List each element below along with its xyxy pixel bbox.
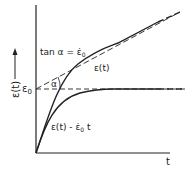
alpha-angle-arc	[58, 77, 60, 89]
curve-epsilon-t-extension	[158, 12, 180, 22]
x-axis-label: t	[166, 156, 170, 167]
curve-epsilon-minus-rate-label: ε(t) - ε̇0 t	[51, 122, 91, 133]
y-axis-label: ε(t)	[10, 81, 21, 98]
alpha-label: α	[51, 79, 57, 89]
curve-epsilon-minus-rate	[36, 89, 158, 153]
strain-diagram: ε(t) t ε0 α tan α = ε̇0 ε(t) ε(t) - ε̇0 …	[0, 0, 189, 172]
tan-alpha-label: tan α = ε̇0	[40, 47, 86, 58]
curve-epsilon-t-label: ε(t)	[94, 63, 109, 73]
y-arrowhead-icon	[13, 48, 18, 55]
epsilon0-label: ε0	[22, 83, 32, 96]
